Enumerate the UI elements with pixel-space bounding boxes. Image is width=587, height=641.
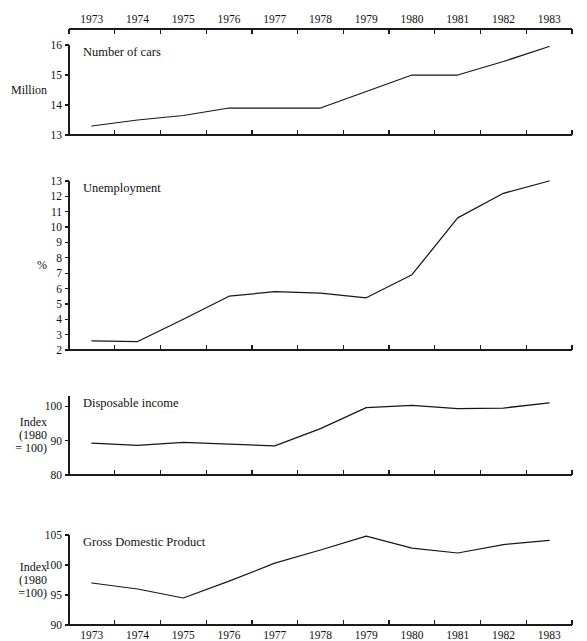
year-label-1982: 1982 [492, 629, 515, 641]
panel-3: 8090100Disposable incomeIndex(1980= 100) [15, 396, 572, 481]
year-label-1978: 1978 [309, 13, 332, 25]
year-label-1974: 1974 [126, 13, 149, 25]
year-label-1981: 1981 [446, 629, 469, 641]
y-tick-label-100: 100 [45, 400, 63, 412]
chart-svg: 13141516Number of carsMillion23456789101… [0, 0, 587, 641]
panel-title-1: Number of cars [83, 45, 161, 59]
panel-2: 2345678910111213Unemployment% [37, 175, 572, 356]
y-tick-label-90: 90 [51, 619, 63, 631]
year-label-1975: 1975 [172, 13, 195, 25]
y-tick-label-14: 14 [51, 99, 63, 111]
y-axis-caption-3: Index [20, 415, 47, 429]
year-label-1977: 1977 [263, 13, 286, 25]
y-tick-label-7: 7 [56, 267, 62, 279]
y-tick-label-2: 2 [56, 344, 62, 356]
year-label-1983: 1983 [538, 13, 561, 25]
y-tick-label-13: 13 [51, 129, 63, 141]
year-label-1979: 1979 [355, 13, 378, 25]
year-label-1979: 1979 [355, 629, 378, 641]
year-label-1973: 1973 [80, 13, 103, 25]
y-tick-label-10: 10 [51, 221, 63, 233]
y-tick-label-16: 16 [51, 39, 63, 51]
y-tick-label-6: 6 [56, 283, 62, 295]
y-tick-label-12: 12 [51, 190, 63, 202]
year-label-1978: 1978 [309, 629, 332, 641]
year-label-1976: 1976 [218, 13, 241, 25]
year-label-1976: 1976 [218, 629, 241, 641]
y-tick-label-11: 11 [51, 206, 62, 218]
series-line-2 [92, 181, 549, 342]
y-tick-label-3: 3 [56, 329, 62, 341]
y-tick-label-80: 80 [51, 469, 63, 481]
year-label-1974: 1974 [126, 629, 149, 641]
y-axis-caption-3: (1980 [19, 428, 47, 442]
y-tick-label-8: 8 [56, 252, 62, 264]
panel-title-4: Gross Domestic Product [83, 535, 206, 549]
year-label-1977: 1977 [263, 629, 286, 641]
year-axis-bottom: 1973197419751976197719781979198019811982… [69, 620, 572, 641]
panel-4: 9095100105Gross Domestic ProductIndex(19… [18, 529, 549, 631]
y-tick-label-9: 9 [56, 236, 62, 248]
year-label-1983: 1983 [538, 629, 561, 641]
y-tick-label-5: 5 [56, 298, 62, 310]
year-label-1975: 1975 [172, 629, 195, 641]
chart-figure: 13141516Number of carsMillion23456789101… [0, 0, 587, 641]
y-tick-label-95: 95 [51, 589, 63, 601]
year-label-1973: 1973 [80, 629, 103, 641]
y-axis-caption-1: Million [11, 83, 47, 97]
panel-title-2: Unemployment [83, 181, 161, 195]
y-tick-label-100: 100 [45, 559, 63, 571]
y-tick-label-15: 15 [51, 69, 63, 81]
y-tick-label-13: 13 [51, 175, 63, 187]
panel-1: 13141516Number of carsMillion [11, 39, 572, 141]
y-tick-label-90: 90 [51, 435, 63, 447]
y-axis-caption-4: =100) [18, 586, 47, 600]
y-axis-caption-3: = 100) [15, 441, 47, 455]
y-axis-caption-4: (1980 [19, 573, 47, 587]
y-tick-label-4: 4 [56, 313, 62, 325]
year-axis-top: 1973197419751976197719781979198019811982… [69, 13, 572, 34]
year-label-1980: 1980 [400, 629, 423, 641]
year-label-1980: 1980 [400, 13, 423, 25]
year-label-1982: 1982 [492, 13, 515, 25]
y-axis-caption-4: Index [20, 560, 47, 574]
year-label-1981: 1981 [446, 13, 469, 25]
y-axis-caption-2: % [37, 258, 47, 272]
y-tick-label-105: 105 [45, 529, 63, 541]
panel-title-3: Disposable income [83, 396, 179, 410]
